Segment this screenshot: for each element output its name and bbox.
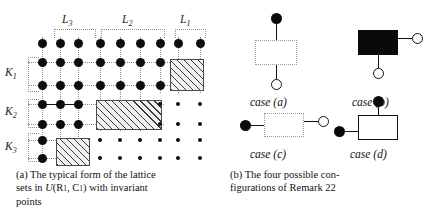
label-K3: K3 (5, 140, 17, 155)
lattice-dot (38, 154, 47, 163)
case-a-box (255, 40, 297, 65)
caption-a-script-u: U (45, 182, 53, 193)
lattice-dot (136, 58, 145, 67)
lattice-diagram: L3 L2 L1 K1 K2 K3 (0, 0, 214, 168)
lattice-dot-small (158, 122, 162, 126)
lattice-dot (56, 39, 65, 48)
case-c-node-left-filled (240, 120, 251, 131)
hatch-block-K3-L3 (56, 138, 90, 166)
caption-a-line2-pre: sets in (16, 182, 45, 193)
lattice-dot-small (138, 138, 142, 142)
panel-lattice-sets: L3 L2 L1 K1 K2 K3 (a) The typical form o… (0, 0, 214, 219)
case-a-node-top-filled (271, 13, 282, 24)
lattice-dot-small (138, 156, 142, 160)
case-d-label: case (d) (350, 148, 387, 160)
lattice-dot (74, 39, 83, 48)
lattice-dot (136, 39, 145, 48)
lattice-dot (56, 58, 65, 67)
case-a-edge-bottom (276, 65, 277, 79)
case-diagrams: case (a) case (b) case (c) case (d) (214, 0, 427, 168)
caption-panel-b: (b) The four possible con- figurations o… (230, 168, 420, 194)
label-L3-sub: 3 (68, 19, 72, 28)
lattice-dot-small (158, 138, 162, 142)
lattice-dot-small (198, 102, 202, 106)
label-K3-text: K (5, 140, 13, 152)
lattice-dot-small (176, 138, 180, 142)
case-b-box (358, 30, 398, 55)
lattice-dot (156, 81, 165, 90)
label-K1-sub: 1 (13, 72, 17, 81)
caption-b-line2: figurations of Remark 22 (230, 182, 336, 193)
lattice-dot-small (198, 122, 202, 126)
label-K3-sub: 3 (13, 146, 17, 155)
caption-a-line3: points (16, 196, 42, 207)
lattice-dot (96, 58, 105, 67)
bracket-L2 (101, 29, 165, 38)
case-d-node-left-filled (334, 126, 345, 137)
case-d-box (358, 115, 398, 140)
lattice-dot (38, 120, 47, 129)
case-c-label: case (c) (250, 148, 286, 160)
lattice-dot (136, 81, 145, 90)
lattice-dot-small (198, 156, 202, 160)
lattice-dot (174, 39, 183, 48)
case-b-edge-bottom (378, 55, 379, 68)
caption-a-line1: (a) The typical form of the lattice (16, 169, 156, 180)
lattice-dot (74, 100, 83, 109)
lattice-dot-small (118, 138, 122, 142)
lattice-dot (38, 136, 47, 145)
lattice-dot (156, 39, 165, 48)
lattice-dot-small (176, 156, 180, 160)
label-L2: L2 (122, 13, 132, 28)
case-c-box (264, 113, 304, 137)
label-L1: L1 (180, 13, 190, 28)
label-L3: L3 (62, 13, 72, 28)
lattice-dot (56, 120, 65, 129)
label-K2-sub: 2 (13, 111, 17, 120)
lattice-dot-small (158, 102, 162, 106)
panel-configurations: case (a) case (b) case (c) case (d) (214, 0, 427, 219)
caption-a-comma: , C (67, 182, 79, 193)
case-b-node-bottom-open (373, 68, 384, 79)
label-K2-text: K (5, 105, 13, 117)
lattice-dot (74, 120, 83, 129)
hatch-block-K1-L1 (170, 59, 204, 91)
lattice-dot-small (158, 156, 162, 160)
lattice-dot (38, 81, 47, 90)
lattice-dot (38, 58, 47, 67)
caption-a-paren-close: ) with invariant (83, 182, 148, 193)
lattice-dot-small (98, 138, 102, 142)
lattice-dot-small (118, 156, 122, 160)
lattice-dot (38, 39, 47, 48)
caption-a-paren-open: (R (53, 182, 64, 193)
case-a-label: case (a) (250, 96, 287, 108)
lattice-dot-small (176, 102, 180, 106)
label-L1-sub: 1 (186, 19, 190, 28)
case-b-edge-right (398, 38, 412, 39)
label-K2: K2 (5, 105, 17, 120)
case-b-node-right-open (412, 33, 423, 44)
caption-b-line1: (b) The four possible con- (230, 169, 339, 180)
hatch-block-K2-L2 (96, 100, 162, 130)
lattice-dot (56, 100, 65, 109)
case-c-node-right-open (318, 116, 329, 127)
lattice-dot (156, 58, 165, 67)
figure-root: L3 L2 L1 K1 K2 K3 (a) The typical form o… (0, 0, 427, 219)
lattice-dot (38, 100, 47, 109)
caption-panel-a: (a) The typical form of the lattice sets… (16, 168, 202, 209)
lattice-dot (96, 39, 105, 48)
lattice-dot-small (176, 122, 180, 126)
case-d-edge-left (344, 131, 358, 132)
lattice-dot (56, 81, 65, 90)
lattice-dot (96, 81, 105, 90)
case-c-edge-left (250, 125, 264, 126)
bracket-L1 (175, 29, 206, 38)
lattice-dot (116, 39, 125, 48)
lattice-dot-small (198, 138, 202, 142)
case-d-node-top-filled (373, 96, 384, 107)
case-a-node-bottom-open (271, 79, 282, 90)
lattice-dot (116, 81, 125, 90)
case-c-edge-right (304, 121, 318, 122)
label-K1: K1 (5, 66, 17, 81)
lattice-dot (74, 81, 83, 90)
